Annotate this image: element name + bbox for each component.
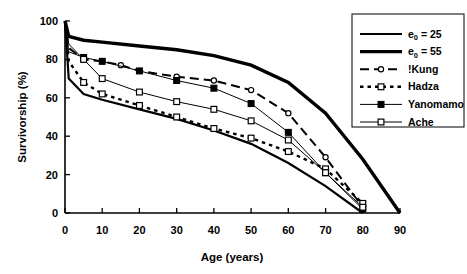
x-tick-label-0: 0	[62, 224, 68, 236]
y-tick-label-60: 60	[46, 92, 58, 104]
data-point-marker	[174, 78, 180, 84]
data-point-marker	[174, 99, 180, 105]
legend-label: !Kung	[408, 63, 438, 75]
data-point-marker	[81, 57, 87, 63]
legend-swatch-marker	[378, 84, 384, 90]
data-point-marker	[137, 89, 143, 95]
data-point-marker	[360, 204, 366, 210]
data-point-marker	[99, 76, 105, 82]
data-point-marker	[323, 170, 329, 176]
data-point-marker	[249, 88, 254, 93]
legend-swatch-marker	[378, 67, 383, 72]
x-tick-label-70: 70	[319, 224, 331, 236]
legend: e0 = 25e0 = 55!KungHadzaYanomamoAche	[352, 14, 464, 128]
legend-swatch-marker	[378, 119, 384, 125]
legend-label: Yanomamo	[408, 98, 464, 110]
y-tick-label-40: 40	[46, 130, 58, 142]
survivorship-line-chart: 0 20 40 60 80 100 0 10 20 30 40 50 60	[0, 0, 467, 274]
data-point-marker	[137, 103, 143, 109]
data-point-marker	[285, 149, 291, 155]
legend-swatch-marker	[378, 102, 384, 108]
data-point-marker	[285, 137, 291, 143]
x-tick-label-30: 30	[171, 224, 183, 236]
chart-page: 0 20 40 60 80 100 0 10 20 30 40 50 60	[0, 0, 467, 274]
data-point-marker	[137, 68, 143, 74]
y-axis-title: Survivorship (%)	[16, 71, 28, 163]
x-tick-label-20: 20	[133, 224, 145, 236]
data-point-marker	[248, 135, 254, 141]
y-tick-label-80: 80	[46, 53, 58, 65]
x-tick-label-90: 90	[394, 224, 406, 236]
x-tick-label-50: 50	[245, 224, 257, 236]
y-tick-label-20: 20	[46, 169, 58, 181]
data-point-marker	[248, 118, 254, 124]
data-point-marker	[286, 111, 291, 116]
x-tick-label-40: 40	[208, 224, 220, 236]
x-axis-title: Age (years)	[201, 251, 264, 263]
x-tick-label-80: 80	[357, 224, 369, 236]
data-point-marker	[99, 91, 105, 97]
y-tick-label-100: 100	[40, 15, 58, 27]
data-point-marker	[211, 78, 216, 83]
data-point-marker	[285, 129, 291, 135]
data-point-marker	[174, 114, 180, 120]
data-point-marker	[211, 85, 217, 91]
data-point-marker	[248, 101, 254, 107]
legend-label: Ache	[408, 116, 434, 128]
data-point-marker	[211, 106, 217, 112]
data-point-marker	[323, 155, 328, 160]
y-tick-label-0: 0	[52, 207, 58, 219]
data-point-marker	[81, 80, 87, 86]
data-point-marker	[211, 126, 217, 132]
x-tick-label-60: 60	[282, 224, 294, 236]
x-tick-label-10: 10	[96, 224, 108, 236]
legend-label: Hadza	[408, 80, 439, 92]
data-point-marker	[99, 58, 105, 64]
